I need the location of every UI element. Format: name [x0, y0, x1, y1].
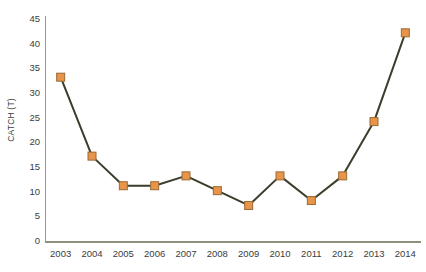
x-axis-tick-label: 2004 — [81, 248, 102, 259]
x-axis-tick-label: 2006 — [144, 248, 165, 259]
x-axis-tick-label: 2005 — [113, 248, 134, 259]
y-axis-tick-label: 45 — [0, 13, 45, 24]
y-axis-tick-label: 30 — [0, 87, 45, 98]
data-point-marker: 2009: 7 — [245, 201, 253, 209]
y-axis-tick-label: 35 — [0, 62, 45, 73]
y-axis-tick-label: 10 — [0, 185, 45, 196]
x-axis-tick-label: 2013 — [363, 248, 384, 259]
y-axis-tick-label: 5 — [0, 210, 45, 221]
data-point-marker: 2012: 13 — [339, 172, 347, 180]
x-axis-tick-labels: 2003200420052006200720082009201020112012… — [45, 248, 421, 266]
data-point-marker: 2007: 13 — [182, 172, 190, 180]
data-point-marker: 2008: 10 — [213, 187, 221, 195]
data-point-marker: 2010: 13 — [276, 172, 284, 180]
line-chart: CATCH (T) 051015202530354045 2003: 33200… — [0, 0, 426, 272]
x-axis-tick-label: 2011 — [301, 248, 321, 259]
y-axis-tick-label: 15 — [0, 161, 45, 172]
y-axis-tick-label: 0 — [0, 235, 45, 246]
x-axis-tick-label: 2009 — [238, 248, 259, 259]
data-point-marker: 2014: 42 — [401, 29, 409, 37]
x-axis-tick-label: 2012 — [332, 248, 353, 259]
data-point-marker: 2003: 33 — [57, 73, 65, 81]
series-line — [61, 33, 406, 206]
data-point-marker: 2006: 11 — [151, 182, 159, 190]
x-axis-tick-label: 2007 — [175, 248, 196, 259]
data-point-marker: 2004: 17 — [88, 152, 96, 160]
y-axis-tick-labels: 051015202530354045 — [0, 0, 45, 272]
data-series-catch: 2003: 332004: 172005: 112006: 112007: 13… — [45, 18, 421, 240]
x-axis-line — [45, 241, 421, 243]
x-axis-tick-label: 2003 — [50, 248, 71, 259]
y-axis-tick-label: 20 — [0, 136, 45, 147]
data-point-marker: 2013: 24 — [370, 118, 378, 126]
x-axis-tick-label: 2008 — [207, 248, 228, 259]
data-point-marker: 2011: 8 — [307, 197, 315, 205]
x-axis-tick-label: 2014 — [395, 248, 416, 259]
data-point-marker: 2005: 11 — [119, 182, 127, 190]
x-axis-tick-label: 2010 — [269, 248, 290, 259]
y-axis-tick-label: 25 — [0, 111, 45, 122]
y-axis-tick-label: 40 — [0, 37, 45, 48]
plot-area: 2003: 332004: 172005: 112006: 112007: 13… — [45, 18, 421, 240]
